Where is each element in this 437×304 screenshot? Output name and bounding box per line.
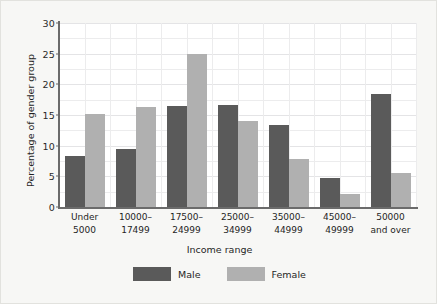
gridline-vertical [416,23,417,207]
y-tick-label: 30 [9,18,55,29]
bar-female-3 [238,121,258,207]
gridline-vertical [212,23,213,207]
bar-male-0 [65,156,85,207]
y-tick-mark [56,84,60,85]
bar-male-2 [167,106,187,207]
bar-chart-figure: 051015202530 Percentage of gender group … [0,0,437,304]
gridline-vertical [110,23,111,207]
gridline-vertical [314,23,315,207]
bar-female-0 [85,114,105,207]
legend-item-male[interactable]: Male [133,267,201,281]
y-tick-mark [56,207,60,208]
x-axis-line [58,207,418,209]
bar-female-2 [187,54,207,207]
y-tick-mark [56,176,60,177]
bar-male-5 [320,178,340,207]
chart-legend: MaleFemale [1,267,437,281]
legend-item-female[interactable]: Female [227,267,306,281]
bar-male-1 [116,149,136,207]
x-axis-ticks: Under 500010000– 1749917500– 2499925000–… [59,211,416,243]
gridline-vertical-minor [340,23,341,207]
y-tick-mark [56,53,60,54]
x-tick-label: 50000 and over [365,211,416,236]
bar-male-4 [269,125,289,207]
x-tick-label: 45000– 49999 [314,211,365,236]
x-tick-label: 17500– 24999 [161,211,212,236]
bar-female-1 [136,107,156,207]
legend-swatch-female [227,267,265,281]
legend-swatch-male [133,267,171,281]
x-axis-title: Income range [1,244,437,255]
gridline-vertical [161,23,162,207]
bar-female-6 [391,173,411,207]
y-tick-mark [56,145,60,146]
y-tick-mark [56,115,60,116]
legend-label: Male [178,269,201,280]
gridline-vertical [365,23,366,207]
bar-female-4 [289,159,309,207]
legend-label: Female [272,269,306,280]
y-tick-mark [56,23,60,24]
bar-male-6 [371,94,391,207]
gridline-vertical [263,23,264,207]
x-tick-label: Under 5000 [59,211,110,236]
bar-female-5 [340,194,360,207]
x-tick-label: 35000– 44999 [263,211,314,236]
y-axis-title: Percentage of gender group [25,36,36,206]
x-tick-label: 25000– 34999 [212,211,263,236]
x-tick-label: 10000– 17499 [110,211,161,236]
bar-male-3 [218,105,238,207]
plot-area [59,23,416,207]
